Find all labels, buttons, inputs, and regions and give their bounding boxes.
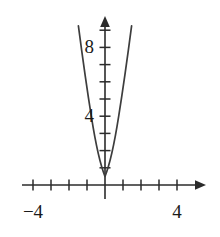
y-axis-label-eight: 8 (85, 36, 95, 57)
x-axis-label-pos-four: 4 (172, 201, 182, 222)
y-axis-arrowhead-icon (100, 16, 110, 27)
x-axis-arrowhead-icon (195, 180, 206, 190)
x-axis-label-neg-four: −4 (23, 201, 44, 222)
coordinate-plane: −4 4 4 8 (0, 0, 220, 237)
y-axis-label-four: 4 (85, 105, 95, 126)
graph-figure: −4 4 4 8 (0, 0, 220, 237)
